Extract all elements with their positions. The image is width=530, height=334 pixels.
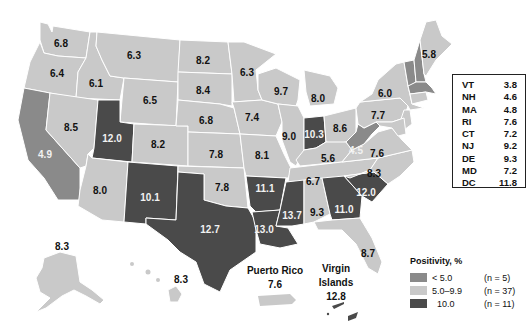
label-mt: 6.3	[127, 50, 141, 61]
label-sc: 12.0	[356, 187, 375, 198]
ne-row-ct: CT7.2	[462, 128, 517, 140]
territory-vi	[327, 313, 329, 315]
state-ar	[246, 176, 286, 212]
legend-item-low: < 5.0 (n = 5)	[410, 271, 528, 284]
label-al: 9.3	[310, 207, 324, 218]
label-ok: 7.8	[215, 182, 229, 193]
virgin-islands-name-1: Virgin	[319, 262, 353, 276]
puerto-rico-value: 7.6	[247, 278, 303, 292]
legend-count: (n = 5)	[484, 273, 510, 283]
ne-row-vt: VT3.8	[462, 79, 517, 91]
label-ms: 13.7	[282, 210, 301, 221]
legend-swatch-mid	[410, 286, 427, 295]
label-ak: 8.3	[55, 241, 69, 252]
label-az: 8.0	[93, 185, 107, 196]
label-va: 7.6	[370, 148, 384, 159]
label-mi: 8.0	[311, 93, 325, 104]
label-nm: 10.1	[140, 192, 159, 203]
label-tn: 6.7	[306, 176, 320, 187]
territory-vi	[348, 312, 358, 321]
label-wy: 6.5	[143, 95, 157, 106]
ne-row-nj: NJ9.2	[462, 140, 517, 152]
label-ar: 11.1	[256, 183, 275, 194]
ne-state: VT	[462, 79, 474, 91]
ne-row-nh: NH4.6	[462, 91, 517, 103]
ne-state: CT	[462, 128, 475, 140]
ne-state: NJ	[462, 140, 474, 152]
label-fl: 8.7	[361, 248, 375, 259]
hawaii-island	[146, 270, 151, 275]
legend-count: (n = 11)	[484, 299, 515, 309]
label-la: 13.0	[254, 224, 273, 235]
puerto-rico-name: Puerto Rico	[247, 264, 303, 278]
ne-state: DE	[462, 153, 475, 165]
legend: Positivity, % < 5.0 (n = 5) 5.0–9.9 (n =…	[410, 256, 528, 310]
label-mo: 8.1	[255, 150, 269, 161]
state-ct-ri	[410, 92, 428, 104]
ne-value: 7.2	[504, 128, 517, 140]
ne-row-de: DE9.3	[462, 153, 517, 165]
legend-count: (n = 37)	[484, 286, 515, 296]
ne-state: RI	[462, 116, 472, 128]
virgin-islands-value: 12.8	[319, 290, 353, 304]
ne-state: NH	[462, 91, 476, 103]
ne-row-md: MD7.2	[462, 165, 517, 177]
legend-range: 10.0	[432, 299, 484, 309]
label-oh: 8.6	[333, 123, 347, 134]
hawaii-island	[130, 262, 134, 266]
label-co: 8.2	[151, 139, 165, 150]
ne-state: MD	[462, 165, 477, 177]
legend-swatch-high	[410, 299, 427, 308]
label-wi: 9.7	[274, 86, 288, 97]
ne-state: DC	[462, 177, 476, 189]
hawaii-island	[156, 278, 160, 282]
label-id: 6.1	[89, 78, 103, 89]
legend-range: < 5.0	[432, 273, 484, 283]
legend-item-mid: 5.0–9.9 (n = 37)	[410, 284, 528, 297]
puerto-rico-label: Puerto Rico 7.6	[247, 264, 303, 292]
label-or: 6.4	[50, 68, 64, 79]
label-il: 9.0	[282, 131, 296, 142]
label-ny: 6.0	[378, 88, 392, 99]
ne-value: 9.2	[504, 140, 517, 152]
ne-value: 4.8	[504, 104, 517, 116]
label-me: 5.8	[422, 49, 436, 60]
ne-value: 9.3	[504, 153, 517, 165]
label-in: 10.3	[304, 129, 323, 140]
state-hi	[168, 286, 182, 302]
territory-pr	[258, 294, 296, 306]
legend-item-high: 10.0 (n = 11)	[410, 297, 528, 310]
legend-range: 5.0–9.9	[432, 286, 484, 296]
label-wa: 6.8	[54, 38, 68, 49]
label-ne: 6.8	[199, 115, 213, 126]
ne-row-dc: DC11.8	[462, 177, 517, 189]
label-sd: 8.4	[196, 85, 210, 96]
label-tx: 12.7	[200, 224, 219, 235]
label-nd: 8.2	[196, 55, 210, 66]
ne-value: 11.8	[499, 177, 517, 189]
state-ak	[36, 252, 104, 312]
legend-title: Positivity, %	[410, 256, 528, 266]
label-ca: 4.9	[38, 149, 52, 160]
label-nc: 8.3	[367, 168, 381, 179]
ne-value: 3.8	[504, 79, 517, 91]
label-wv: 4.5	[349, 145, 363, 156]
legend-swatch-low	[410, 273, 427, 282]
ne-state: MA	[462, 104, 477, 116]
label-hi: 8.3	[174, 274, 188, 285]
label-ga: 11.0	[335, 204, 354, 215]
label-nv: 8.5	[64, 122, 78, 133]
virgin-islands-label: Virgin Islands 12.8	[319, 262, 353, 304]
label-mn: 6.3	[240, 67, 254, 78]
label-ks: 7.8	[209, 149, 223, 160]
ne-row-ma: MA4.8	[462, 104, 517, 116]
label-ky: 5.6	[321, 153, 335, 164]
ne-value: 7.6	[504, 116, 517, 128]
ne-value: 4.6	[504, 91, 517, 103]
label-ut: 12.0	[102, 133, 121, 144]
virgin-islands-name-2: Islands	[319, 276, 353, 290]
ne-value: 7.2	[504, 165, 517, 177]
northeast-values-box: VT3.8 NH4.6 MA4.8 RI7.6 CT7.2 NJ9.2 DE9.…	[452, 74, 526, 188]
label-ia: 7.4	[245, 112, 259, 123]
label-pa: 7.7	[371, 110, 385, 121]
